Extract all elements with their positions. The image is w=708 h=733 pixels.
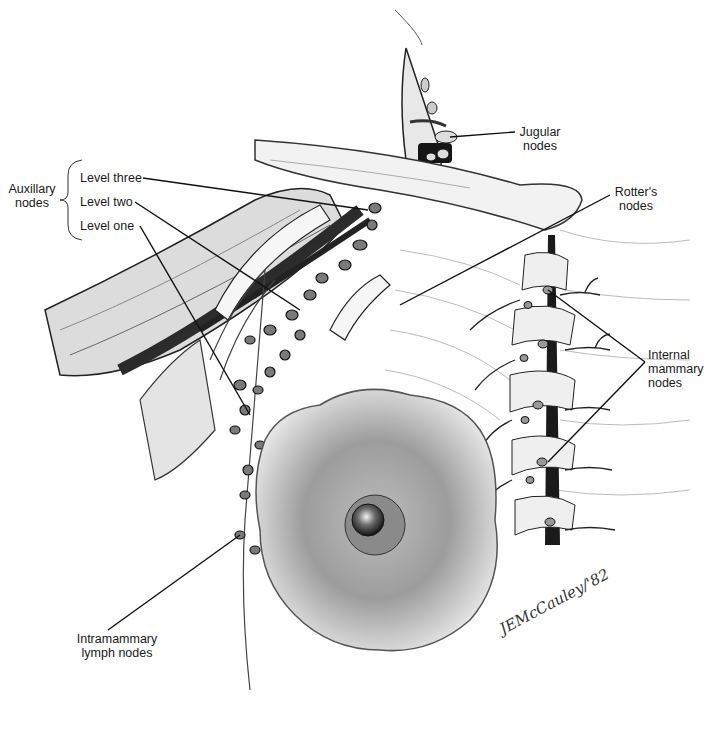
label-jugular-nodes: Jugular nodes — [510, 125, 570, 153]
label-intramammary-lymph-nodes: Intramammary lymph nodes — [62, 632, 172, 660]
auxillary-brace — [60, 160, 82, 240]
breast — [256, 389, 497, 650]
leader-intramammary — [108, 535, 240, 630]
label-rotters-nodes: Rotter's nodes — [606, 185, 666, 213]
label-internal-mammary-nodes: Internal mammary nodes — [648, 348, 704, 390]
anatomical-illustration — [0, 0, 708, 733]
label-level-one: Level one — [80, 219, 134, 233]
leader-jugular — [450, 132, 515, 137]
label-level-two: Level two — [80, 195, 133, 209]
label-auxillary-nodes: Auxillary nodes — [4, 182, 60, 210]
label-level-three: Level three — [80, 171, 142, 185]
